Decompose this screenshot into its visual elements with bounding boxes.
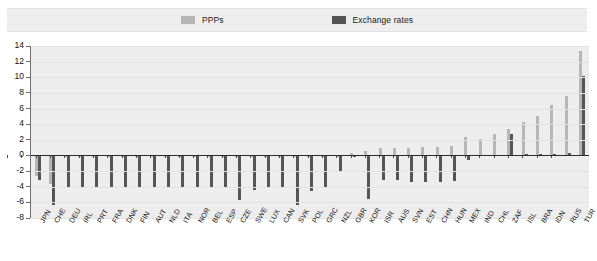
bar-exchange-rates [253, 155, 256, 189]
bar-group [35, 46, 41, 218]
bar-exchange-rates [52, 155, 55, 204]
bar-group [164, 46, 170, 218]
x-axis-ticks [30, 0, 588, 4]
bar-exchange-rates [382, 155, 385, 180]
bar-group [64, 46, 70, 218]
bar-group [436, 46, 442, 218]
bar-exchange-rates [410, 155, 413, 182]
bar-exchange-rates [582, 76, 585, 156]
bar-group [421, 46, 427, 218]
bar-ppps [550, 105, 553, 156]
y-axis-tick-label: -6 [16, 196, 24, 207]
bar-group [250, 46, 256, 218]
bar-group [221, 46, 227, 218]
bar-group [336, 46, 342, 218]
bar-group [135, 46, 141, 218]
bar-exchange-rates [339, 155, 342, 171]
bar-group [107, 46, 113, 218]
bar-group [78, 46, 84, 218]
gridline [31, 62, 589, 63]
bar-ppps [407, 148, 410, 156]
chart-legend: PPPs Exchange rates [7, 8, 587, 32]
gridline [31, 171, 589, 172]
legend-item-exchange-rates: Exchange rates [332, 15, 413, 25]
bar-group [522, 46, 528, 218]
plot-area [30, 46, 589, 218]
bar-exchange-rates [439, 155, 442, 182]
bar-exchange-rates [38, 155, 41, 179]
y-axis-tick-label: 6 [19, 103, 24, 114]
bar-group [92, 46, 98, 218]
y-axis-tick-label: -2 [16, 165, 24, 176]
bar-group [407, 46, 413, 218]
bar-group [49, 46, 55, 218]
bar-ppps [450, 146, 453, 155]
bar-group [379, 46, 385, 218]
bar-group [364, 46, 370, 218]
ppps-swatch-icon [181, 16, 195, 24]
bar-group [579, 46, 585, 218]
y-axis-tick-label: 12 [15, 56, 24, 67]
bar-exchange-rates [510, 134, 513, 156]
bar-series-container [31, 46, 589, 218]
bar-ppps [379, 148, 382, 155]
bar-exchange-rates [396, 155, 399, 180]
bar-group [178, 46, 184, 218]
y-axis-tick-label: 4 [19, 118, 24, 129]
bar-ppps [436, 147, 439, 156]
bar-group [321, 46, 327, 218]
legend-label-exchange-rates: Exchange rates [353, 15, 413, 25]
gridline [31, 140, 589, 141]
y-axis-tick-label: -4 [16, 181, 24, 192]
gridline [31, 202, 589, 203]
bar-group [479, 46, 485, 218]
bar-exchange-rates [453, 155, 456, 181]
x-axis-tick-mark [21, 155, 22, 158]
x-axis-labels: JPNCHEDEUIRLPRTFRADNKFINAUTNLDITANORBELE… [30, 220, 588, 261]
bar-group [293, 46, 299, 218]
bar-ppps [479, 139, 482, 155]
legend-item-ppps: PPPs [181, 15, 224, 25]
bar-ppps [522, 122, 525, 156]
gridline [31, 187, 589, 188]
bar-group [307, 46, 313, 218]
bar-group [264, 46, 270, 218]
gridline [31, 124, 589, 125]
x-axis-tick-mark [7, 155, 8, 158]
legend-label-ppps: PPPs [202, 15, 224, 25]
exchange-rates-swatch-icon [332, 16, 346, 24]
bar-group [350, 46, 356, 218]
y-axis: -8-6-4-202468101214 [0, 46, 30, 218]
bar-exchange-rates [296, 155, 299, 204]
y-axis-tick-label: -8 [16, 212, 24, 223]
y-axis-tick-label: 10 [15, 71, 24, 82]
bar-group [278, 46, 284, 218]
bar-exchange-rates [424, 155, 427, 182]
zero-line [31, 155, 589, 156]
gridline [31, 46, 589, 47]
bar-group [565, 46, 571, 218]
bar-group [121, 46, 127, 218]
bar-ppps [421, 147, 424, 156]
gridline [31, 77, 589, 78]
bar-group [235, 46, 241, 218]
gridline [31, 109, 589, 110]
y-axis-tick-label: 14 [15, 40, 24, 51]
bar-group [193, 46, 199, 218]
bar-exchange-rates [238, 155, 241, 200]
gridline [31, 93, 589, 94]
bar-group [393, 46, 399, 218]
bar-ppps [565, 96, 568, 155]
y-axis-tick-label: 8 [19, 87, 24, 98]
bar-group [450, 46, 456, 218]
bar-exchange-rates [367, 155, 370, 199]
y-axis-tick-label: 2 [19, 134, 24, 145]
bar-group [464, 46, 470, 218]
bar-ppps [536, 116, 539, 156]
bar-group [150, 46, 156, 218]
bar-ppps [493, 134, 496, 155]
bar-group [507, 46, 513, 218]
bar-group [550, 46, 556, 218]
bar-ppps [393, 148, 396, 156]
